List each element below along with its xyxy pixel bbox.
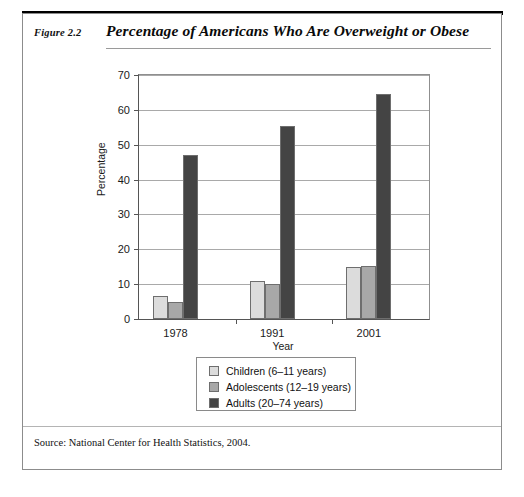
plot-area: 010203040506070 197819912001 bbox=[138, 74, 430, 320]
y-axis-tick bbox=[134, 319, 139, 320]
y-axis-tick-label: 70 bbox=[118, 69, 130, 81]
source-divider bbox=[23, 426, 501, 427]
x-axis-tick bbox=[332, 319, 333, 324]
bar bbox=[346, 267, 361, 319]
y-axis-tick-label: 50 bbox=[118, 139, 130, 151]
x-axis-tick-label: 2001 bbox=[357, 327, 381, 339]
legend-item: Adolescents (12–19 years) bbox=[209, 380, 355, 395]
bar bbox=[153, 296, 168, 319]
bar bbox=[265, 284, 280, 319]
y-axis-title: Percentage bbox=[95, 142, 107, 196]
bar bbox=[376, 94, 391, 319]
chart-legend: Children (6–11 years)Adolescents (12–19 … bbox=[196, 357, 356, 411]
y-axis-tick-label: 0 bbox=[124, 313, 130, 325]
y-axis-tick-label: 40 bbox=[118, 174, 130, 186]
legend-swatch bbox=[209, 398, 219, 408]
bar bbox=[361, 266, 376, 319]
y-axis-tick-label: 30 bbox=[118, 208, 130, 220]
y-axis-tick-label: 60 bbox=[118, 104, 130, 116]
legend-label: Children (6–11 years) bbox=[226, 365, 326, 377]
bar bbox=[250, 281, 265, 319]
x-axis-tick-label: 1991 bbox=[260, 327, 284, 339]
bar-chart: Percentage 010203040506070 197819912001 … bbox=[0, 0, 524, 497]
legend-item: Children (6–11 years) bbox=[209, 364, 355, 379]
bars-layer bbox=[139, 75, 429, 319]
bar bbox=[183, 155, 198, 319]
y-axis-tick-label: 10 bbox=[118, 278, 130, 290]
legend-item: Adults (20–74 years) bbox=[209, 396, 355, 411]
figure-page: Figure 2.2 Percentage of Americans Who A… bbox=[0, 0, 524, 497]
legend-label: Adults (20–74 years) bbox=[226, 397, 323, 409]
bar bbox=[280, 126, 295, 319]
legend-swatch bbox=[209, 366, 219, 376]
legend-swatch bbox=[209, 382, 219, 392]
figure-source: Source: National Center for Health Stati… bbox=[34, 437, 250, 448]
y-axis-tick-label: 20 bbox=[118, 243, 130, 255]
bar bbox=[168, 302, 183, 319]
legend-label: Adolescents (12–19 years) bbox=[226, 381, 351, 393]
x-axis-tick bbox=[236, 319, 237, 324]
x-axis-title: Year bbox=[272, 340, 293, 352]
x-axis-tick-label: 1978 bbox=[163, 327, 187, 339]
